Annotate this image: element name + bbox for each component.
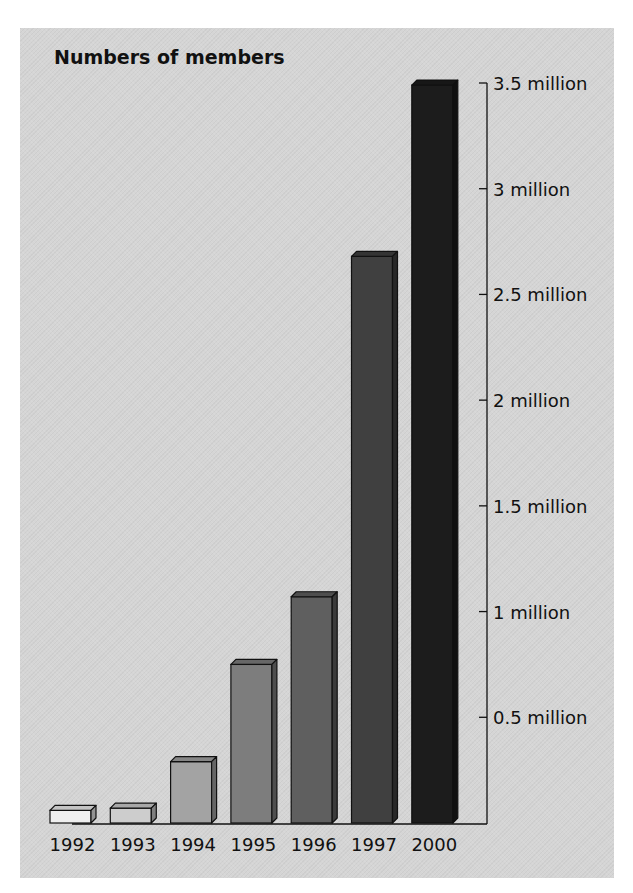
bar-2000	[412, 80, 458, 823]
bar-1993	[110, 803, 156, 823]
y-tick-label: 3 million	[493, 179, 570, 200]
x-tick-label: 1996	[291, 834, 337, 855]
x-tick-label: 1992	[50, 834, 96, 855]
x-tick-label: 1997	[351, 834, 397, 855]
y-tick-label: 3.5 million	[493, 73, 587, 94]
bar-1996	[291, 592, 337, 823]
bar-1995	[231, 659, 277, 823]
x-tick-label: 1993	[110, 834, 156, 855]
y-tick-label: 2 million	[493, 390, 570, 411]
y-tick-label: 0.5 million	[493, 707, 587, 728]
bar-1997	[352, 251, 398, 823]
y-tick-label: 2.5 million	[493, 284, 587, 305]
x-tick-label: 1994	[170, 834, 216, 855]
bar-1994	[171, 757, 217, 823]
y-tick-label: 1 million	[493, 602, 570, 623]
bar-1992	[50, 805, 96, 823]
x-tick-label: 1995	[230, 834, 276, 855]
bar-chart: 0.5 million1 million1.5 million2 million…	[20, 28, 614, 878]
y-tick-label: 1.5 million	[493, 496, 587, 517]
chart-panel: Numbers of members 0.5 million1 million1…	[20, 28, 614, 878]
x-tick-label: 2000	[411, 834, 457, 855]
